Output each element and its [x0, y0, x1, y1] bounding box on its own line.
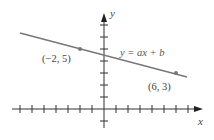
- y-axis-arrow-icon: [101, 13, 107, 22]
- point-marker-a: [78, 47, 82, 51]
- point-a-label: (−2, 5): [42, 53, 71, 65]
- diagram-canvas: x y (−2, 5) (6, 3) y = ax + b: [0, 0, 214, 140]
- point-b-label: (6, 3): [148, 81, 171, 93]
- equation-label: y = ax + b: [119, 47, 165, 58]
- y-axis-label: y: [109, 7, 115, 19]
- x-axis-arrow-icon: [194, 106, 203, 112]
- x-axis: [12, 105, 203, 113]
- point-marker-b: [174, 71, 178, 75]
- x-axis-label: x: [197, 115, 203, 127]
- y-axis: [100, 13, 108, 128]
